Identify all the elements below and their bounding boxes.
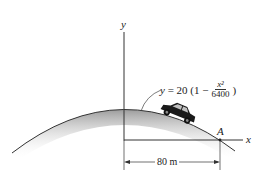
- equation-coefficient: 20: [177, 84, 188, 96]
- diagram: y x A y = 20 (1 − x² 6400 ) 80 m: [0, 0, 262, 185]
- equation-close: ): [232, 84, 236, 96]
- point-a-label: A: [217, 126, 224, 137]
- equation-fraction: x² 6400: [209, 80, 231, 99]
- equation-leader-line: [141, 90, 161, 111]
- equation-open: (1 −: [190, 84, 208, 96]
- dimension-arrow-right: [214, 160, 220, 164]
- curve-equation: y = 20 (1 − x² 6400 ): [160, 80, 236, 99]
- y-axis-label: y: [121, 19, 126, 30]
- equation-denominator: 6400: [209, 90, 231, 99]
- dimension-label: 80 m: [155, 156, 179, 167]
- dimension-arrow-left: [124, 160, 130, 164]
- equation-equals: =: [165, 84, 177, 96]
- point-a-marker: [219, 139, 222, 142]
- x-axis-label: x: [246, 134, 251, 145]
